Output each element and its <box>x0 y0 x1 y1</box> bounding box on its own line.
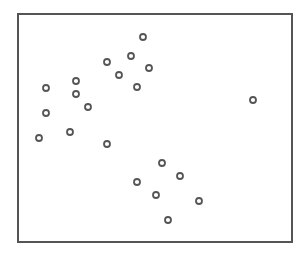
data-point <box>165 217 171 223</box>
data-point <box>104 59 110 65</box>
data-point <box>250 97 256 103</box>
data-point <box>104 141 110 147</box>
data-point <box>140 34 146 40</box>
data-point <box>43 85 49 91</box>
data-point <box>36 135 42 141</box>
data-point <box>67 129 73 135</box>
data-point <box>134 179 140 185</box>
data-point <box>73 91 79 97</box>
data-point <box>43 110 49 116</box>
data-point <box>128 53 134 59</box>
data-points <box>36 34 256 223</box>
data-point <box>134 84 140 90</box>
data-point <box>153 192 159 198</box>
data-point <box>73 78 79 84</box>
plot-frame <box>18 14 292 242</box>
scatter-plot <box>0 0 308 254</box>
data-point <box>116 72 122 78</box>
data-point <box>85 104 91 110</box>
data-point <box>177 173 183 179</box>
data-point <box>146 65 152 71</box>
data-point <box>159 160 165 166</box>
data-point <box>196 198 202 204</box>
